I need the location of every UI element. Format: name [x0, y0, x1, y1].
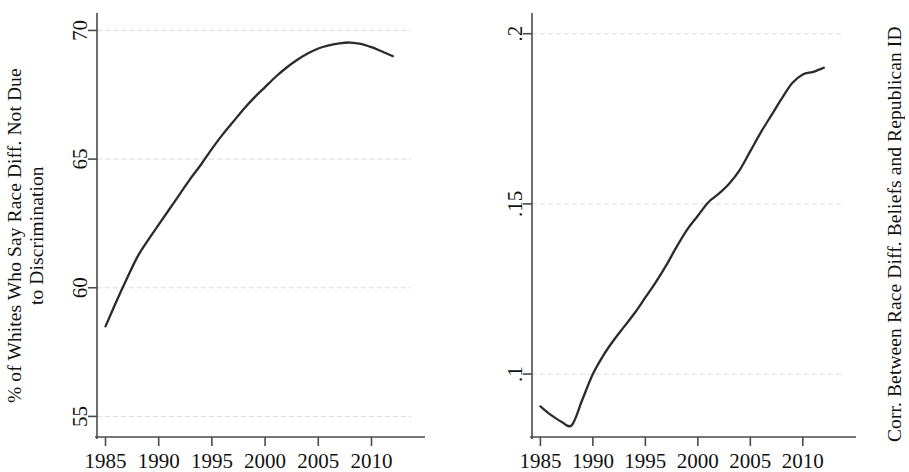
- y-axis-tick-label-right: .15: [503, 191, 527, 217]
- x-axis-tick-label-left: 1990: [138, 449, 180, 472]
- x-axis-tick-label-right: 1995: [624, 449, 666, 472]
- y-axis-tick-label-left: 65: [68, 149, 92, 170]
- plot-area-left: 55606570198519901995200020052010: [0, 0, 440, 472]
- y-axis-tick-label-left: 55: [68, 406, 92, 427]
- x-axis-tick-label-right: 1985: [519, 449, 561, 472]
- x-axis-tick-label-left: 2010: [350, 449, 392, 472]
- series-line-left: [106, 43, 393, 327]
- y-axis-tick-label-left: 60: [68, 277, 92, 298]
- series-line-right: [540, 68, 823, 427]
- x-axis-tick-label-right: 2005: [729, 449, 771, 472]
- y-axis-tick-label-left: 70: [68, 20, 92, 41]
- y-axis-title-right: Corr. Between Race Diff. Beliefs and Rep…: [884, 22, 909, 446]
- chart-panel-right: Corr. Between Race Diff. Beliefs and Rep…: [440, 0, 866, 472]
- plot-area-right: .1.15.2198519901995200020052010: [440, 0, 866, 472]
- x-axis-tick-label-left: 2005: [297, 449, 339, 472]
- y-axis-tick-label-right: .1: [503, 366, 527, 382]
- y-axis-tick-label-right: .2: [503, 26, 527, 42]
- x-axis-tick-label-right: 1990: [572, 449, 614, 472]
- x-axis-tick-label-left: 1985: [85, 449, 127, 472]
- x-axis-tick-label-right: 2010: [782, 449, 824, 472]
- x-axis-tick-label-left: 2000: [244, 449, 286, 472]
- x-axis-tick-label-right: 2000: [677, 449, 719, 472]
- x-axis-tick-label-left: 1995: [191, 449, 233, 472]
- chart-panel-left: % of Whites Who Say Race Diff. Not Due t…: [0, 0, 440, 472]
